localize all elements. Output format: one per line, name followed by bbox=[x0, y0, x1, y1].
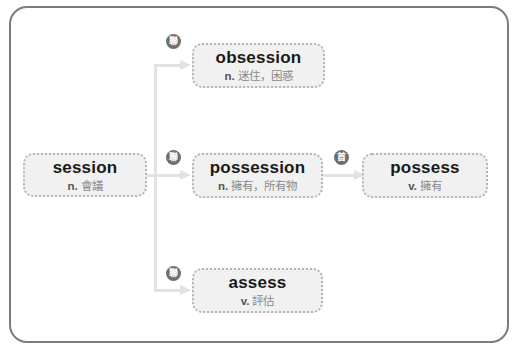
node-definition: v.評估 bbox=[194, 293, 321, 309]
related-badge-icon: 聯 bbox=[166, 150, 181, 165]
node-word: possess bbox=[364, 158, 486, 178]
definition-text: 擁有，所有物 bbox=[231, 180, 297, 192]
part-of-speech: v. bbox=[241, 295, 250, 307]
node-obsession: obsession n.迷住，困惑 bbox=[192, 43, 325, 88]
node-possess: possess v.擁有 bbox=[362, 153, 488, 198]
node-definition: n.會議 bbox=[25, 178, 145, 194]
connector-to-obsession bbox=[154, 64, 181, 67]
part-of-speech: v. bbox=[408, 180, 417, 192]
node-word: obsession bbox=[194, 48, 323, 68]
connector-trunk bbox=[154, 64, 157, 292]
arrow-to-possession-icon bbox=[180, 170, 191, 180]
node-word: session bbox=[25, 158, 145, 178]
prefix-badge-icon: 首 bbox=[334, 150, 349, 165]
related-badge-icon: 聯 bbox=[166, 266, 181, 281]
connector-to-assess bbox=[154, 289, 181, 292]
node-possession: possession n.擁有，所有物 bbox=[192, 153, 323, 198]
arrow-to-obsession-icon bbox=[180, 60, 191, 70]
node-session: session n.會議 bbox=[23, 153, 147, 197]
part-of-speech: n. bbox=[67, 180, 77, 192]
node-word: assess bbox=[194, 273, 321, 293]
connector-possession-to-possess bbox=[323, 174, 356, 177]
definition-text: 擁有 bbox=[420, 180, 442, 192]
definition-text: 會議 bbox=[81, 180, 103, 192]
related-badge-icon: 聯 bbox=[166, 34, 181, 49]
part-of-speech: n. bbox=[224, 70, 234, 82]
node-definition: v.擁有 bbox=[364, 178, 486, 194]
definition-text: 迷住，困惑 bbox=[238, 70, 293, 82]
part-of-speech: n. bbox=[218, 180, 228, 192]
node-definition: n.迷住，困惑 bbox=[194, 68, 323, 84]
node-definition: n.擁有，所有物 bbox=[194, 178, 321, 194]
node-word: possession bbox=[194, 158, 321, 178]
definition-text: 評估 bbox=[252, 295, 274, 307]
arrow-to-assess-icon bbox=[180, 285, 191, 295]
node-assess: assess v.評估 bbox=[192, 268, 323, 313]
